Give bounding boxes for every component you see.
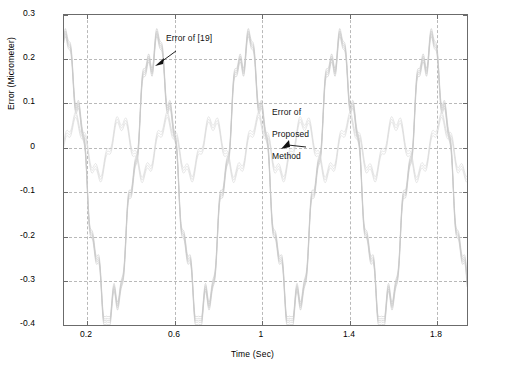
y-tick-mark bbox=[463, 325, 467, 326]
data-curves bbox=[64, 15, 467, 325]
y-tick-mark bbox=[64, 325, 68, 326]
series-error-of-19 bbox=[64, 29, 467, 325]
y-tick-label: 0.3 bbox=[0, 9, 35, 18]
annotation-line-1: Error of bbox=[272, 107, 309, 118]
x-tick-label: 1.8 bbox=[416, 330, 456, 339]
y-tick-label: 0 bbox=[0, 142, 35, 151]
plot-area bbox=[63, 14, 468, 326]
annotation-line-3: Method bbox=[272, 151, 309, 162]
series-error-of-proposed-method bbox=[64, 112, 467, 183]
x-tick-label: 0.2 bbox=[66, 330, 106, 339]
x-tick-label: 1 bbox=[241, 330, 281, 339]
x-axis-title: Time (Sec) bbox=[0, 349, 505, 359]
y-tick-label: -0.4 bbox=[0, 319, 35, 328]
chart-figure: 0.3 0.2 0.1 0 -0.1 -0.2 -0.3 -0.4 0.2 0.… bbox=[0, 0, 505, 374]
y-tick-label: -0.2 bbox=[0, 231, 35, 240]
x-tick-label: 0.6 bbox=[154, 330, 194, 339]
x-tick-label: 1.4 bbox=[329, 330, 369, 339]
arrow-icon bbox=[278, 133, 308, 151]
annotation-error-of-19: Error of [19] bbox=[166, 33, 212, 44]
y-tick-label: -0.3 bbox=[0, 275, 35, 284]
arrow-icon bbox=[152, 50, 178, 68]
y-axis-title: Error (Micrometer) bbox=[6, 37, 16, 110]
y-tick-label: -0.1 bbox=[0, 186, 35, 195]
